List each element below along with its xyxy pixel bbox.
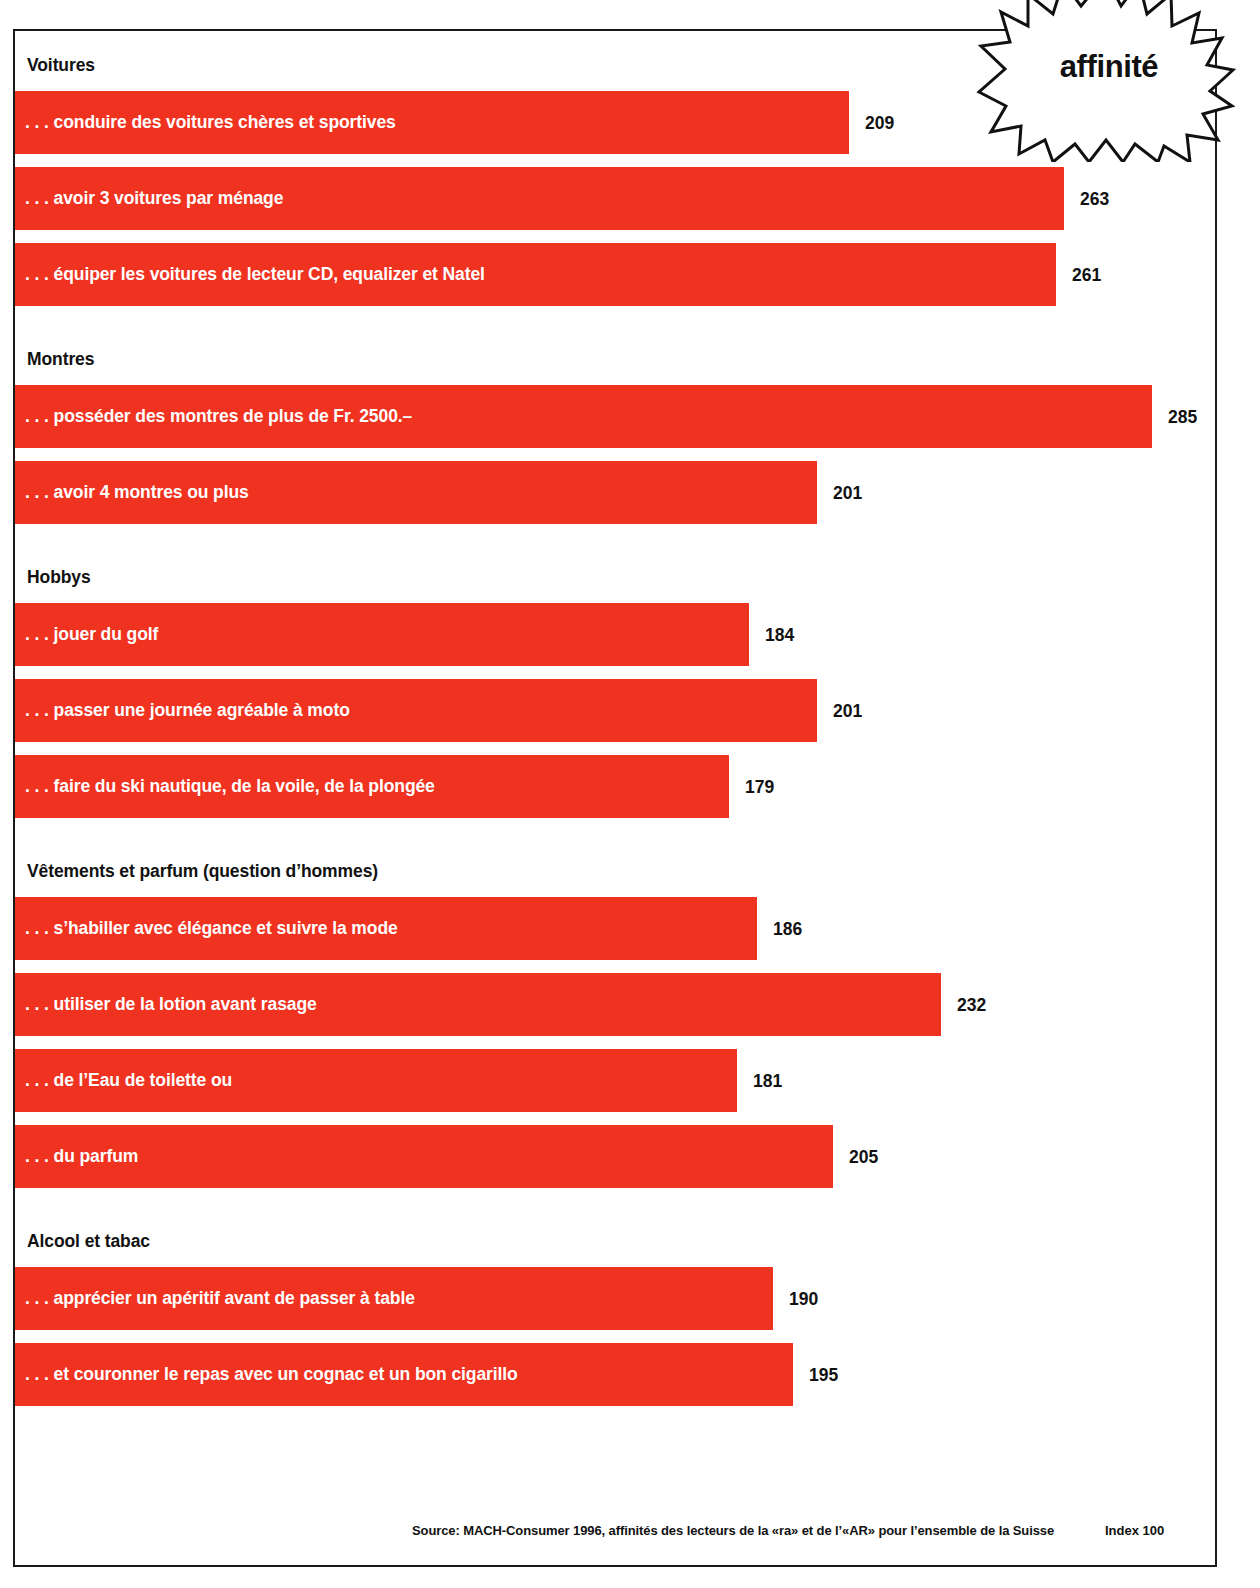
- bar-label: . . . s’habiller avec élégance et suivre…: [15, 918, 398, 939]
- bar-row: . . . s’habiller avec élégance et suivre…: [15, 897, 757, 960]
- bar-row: . . . avoir 4 montres ou plus: [15, 461, 817, 524]
- bar-label: . . . de l’Eau de toilette ou: [15, 1070, 232, 1091]
- bar-value-label: 285: [1168, 406, 1197, 428]
- bar-label: . . . équiper les voitures de lecteur CD…: [15, 264, 485, 285]
- chart-page: Voitures. . . conduire des voitures chèr…: [0, 0, 1260, 1588]
- bar-label: . . . passer une journée agréable à moto: [15, 700, 350, 721]
- bar-value-label: 205: [849, 1146, 878, 1168]
- bar-row: . . . apprécier un apéritif avant de pas…: [15, 1267, 773, 1330]
- bar-label: . . . jouer du golf: [15, 624, 158, 645]
- bar-value-label: 201: [833, 700, 862, 722]
- bar-row: . . . jouer du golf: [15, 603, 749, 666]
- group-heading: Vêtements et parfum (question d’hommes): [15, 845, 378, 897]
- bar-value-label: 195: [809, 1364, 838, 1386]
- bar-value-label: 190: [789, 1288, 818, 1310]
- bar-row: . . . utiliser de la lotion avant rasage: [15, 973, 941, 1036]
- chart-plot-area: Voitures. . . conduire des voitures chèr…: [15, 31, 1215, 1565]
- bar-row: . . . avoir 3 voitures par ménage: [15, 167, 1064, 230]
- group-heading: Hobbys: [15, 551, 91, 603]
- bar-value-label: 263: [1080, 188, 1109, 210]
- bar-label: . . . avoir 4 montres ou plus: [15, 482, 249, 503]
- group-heading: Montres: [15, 333, 94, 385]
- bar-value-label: 186: [773, 918, 802, 940]
- chart-source-note: Source: MACH-Consumer 1996, affinités de…: [412, 1523, 1054, 1538]
- starburst-icon: affinité: [975, 0, 1237, 162]
- bar-label: . . . utiliser de la lotion avant rasage: [15, 994, 317, 1015]
- starburst-label: affinité: [975, 0, 1237, 162]
- bar-label: . . . faire du ski nautique, de la voile…: [15, 776, 435, 797]
- bar-label: . . . et couronner le repas avec un cogn…: [15, 1364, 518, 1385]
- bar-value-label: 181: [753, 1070, 782, 1092]
- bar-value-label: 209: [865, 112, 894, 134]
- bar-label: . . . posséder des montres de plus de Fr…: [15, 406, 412, 427]
- bar-row: . . . et couronner le repas avec un cogn…: [15, 1343, 793, 1406]
- bar-value-label: 184: [765, 624, 794, 646]
- bar-value-label: 232: [957, 994, 986, 1016]
- bar-row: . . . de l’Eau de toilette ou: [15, 1049, 737, 1112]
- bar-value-label: 201: [833, 482, 862, 504]
- group-heading: Voitures: [15, 39, 95, 91]
- bar-label: . . . du parfum: [15, 1146, 138, 1167]
- bar-label: . . . conduire des voitures chères et sp…: [15, 112, 396, 133]
- bar-value-label: 179: [745, 776, 774, 798]
- bar-value-label: 261: [1072, 264, 1101, 286]
- bar-row: . . . du parfum: [15, 1125, 833, 1188]
- bar-label: . . . avoir 3 voitures par ménage: [15, 188, 283, 209]
- bar-row: . . . conduire des voitures chères et sp…: [15, 91, 849, 154]
- bar-label: . . . apprécier un apéritif avant de pas…: [15, 1288, 415, 1309]
- bar-row: . . . posséder des montres de plus de Fr…: [15, 385, 1152, 448]
- bar-row: . . . passer une journée agréable à moto: [15, 679, 817, 742]
- chart-frame: Voitures. . . conduire des voitures chèr…: [13, 29, 1217, 1567]
- chart-index-note: Index 100: [1105, 1523, 1164, 1538]
- bar-row: . . . faire du ski nautique, de la voile…: [15, 755, 729, 818]
- bar-row: . . . équiper les voitures de lecteur CD…: [15, 243, 1056, 306]
- group-heading: Alcool et tabac: [15, 1215, 150, 1267]
